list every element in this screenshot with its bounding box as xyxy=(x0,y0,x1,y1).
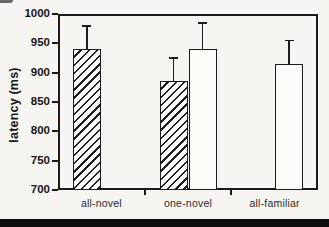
category-label-all-familiar: all-familiar xyxy=(230,197,320,209)
bar-one-novel-open xyxy=(189,49,217,190)
error-bar-cap-1 xyxy=(169,57,178,59)
bar-one-novel-hatched xyxy=(160,81,188,190)
error-bar-line-0 xyxy=(86,26,88,49)
category-label-all-novel: all-novel xyxy=(56,197,146,209)
figure-scan: latency (ms) 1000950900850800750700all-n… xyxy=(0,0,329,227)
error-bar-cap-0 xyxy=(82,25,91,27)
x-tick-mark-2 xyxy=(230,190,232,195)
y-tick-label-950: 950 xyxy=(0,37,50,49)
y-tick-label-800: 800 xyxy=(0,125,50,136)
scan-black-band xyxy=(0,219,329,227)
scan-artifact-top-left xyxy=(0,0,13,3)
bar-all-novel-hatched xyxy=(73,49,101,190)
error-bar-cap-2 xyxy=(198,22,207,24)
y-tick-label-850: 850 xyxy=(0,96,50,108)
error-bar-line-3 xyxy=(288,40,290,63)
x-tick-mark-1 xyxy=(144,190,146,195)
error-bar-line-1 xyxy=(173,58,175,81)
y-tick-label-700: 700 xyxy=(0,184,50,196)
y-tick-mark-850 xyxy=(52,101,58,103)
y-tick-label-1000: 1000 xyxy=(0,8,50,20)
category-label-one-novel: one-novel xyxy=(143,197,233,209)
y-tick-label-900: 900 xyxy=(0,67,50,79)
y-tick-mark-750 xyxy=(52,160,58,162)
error-bar-cap-3 xyxy=(285,40,294,42)
y-tick-mark-1000 xyxy=(52,13,58,15)
y-tick-mark-900 xyxy=(52,72,58,74)
bar-all-familiar-open xyxy=(275,64,303,190)
error-bar-line-2 xyxy=(202,23,204,49)
y-tick-mark-950 xyxy=(52,42,58,44)
y-tick-label-750: 750 xyxy=(0,155,50,167)
y-tick-mark-700 xyxy=(52,189,58,191)
y-tick-mark-800 xyxy=(52,130,58,132)
